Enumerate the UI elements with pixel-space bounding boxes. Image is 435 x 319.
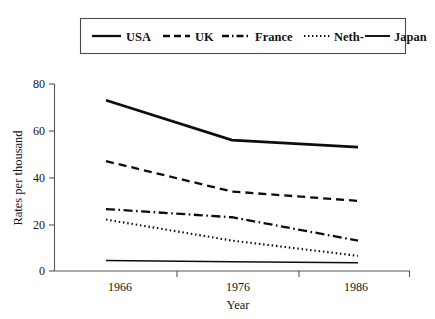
line-chart-figure: USA UK France Neth- Japan (0, 0, 435, 319)
x-tick-label-1976: 1976 (226, 280, 250, 294)
y-tick-label-40: 40 (33, 171, 45, 185)
x-tick-label-1986: 1986 (344, 280, 368, 294)
y-tick-label-0: 0 (39, 264, 45, 278)
y-axis-title: Rates per thousand (11, 130, 25, 226)
series-line-usa (106, 100, 358, 147)
y-tick-label-60: 60 (33, 124, 45, 138)
chart-canvas: USA UK France Neth- Japan (0, 0, 435, 319)
legend-label-neth: Neth- (334, 30, 364, 44)
legend-label-japan: Japan (394, 30, 427, 44)
legend-label-uk: UK (195, 30, 214, 44)
chart-legend: USA UK France Neth- Japan (81, 19, 427, 54)
y-tick-label-80: 80 (33, 77, 45, 91)
legend-label-usa: USA (126, 30, 151, 44)
series-line-japan (106, 260, 358, 262)
series-line-neth (106, 220, 358, 256)
chart-series-group (106, 100, 358, 262)
legend-label-france: France (255, 30, 293, 44)
series-line-france (106, 209, 358, 241)
x-tick-label-1966: 1966 (108, 280, 132, 294)
x-axis-title: Year (226, 298, 250, 312)
y-tick-label-20: 20 (33, 218, 45, 232)
chart-axes: 80 60 40 20 0 1966 1976 1986 Year Rates … (11, 77, 410, 312)
series-line-uk (106, 161, 358, 201)
